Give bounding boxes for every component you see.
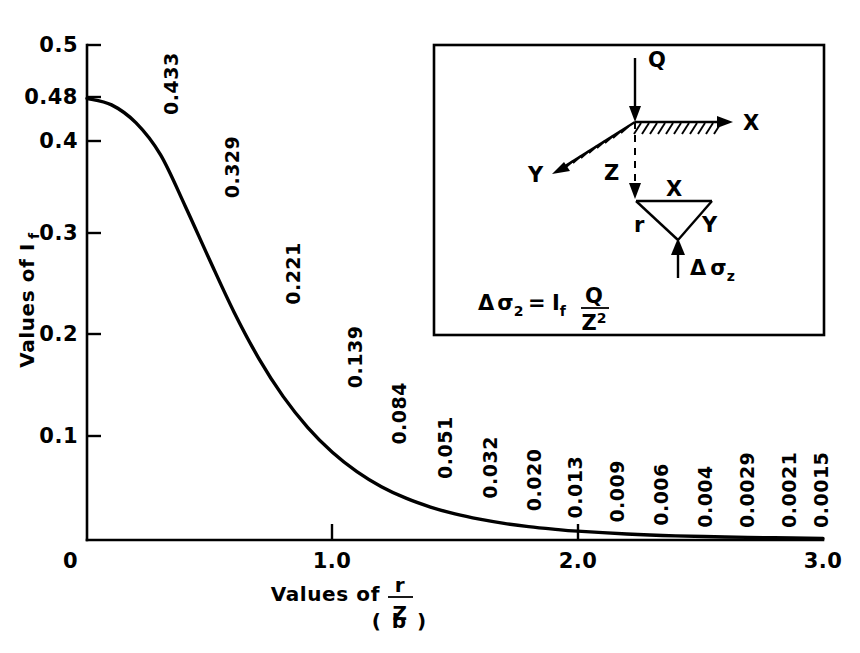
inset-formula: Δσ2 = If Q Z2 <box>478 284 609 335</box>
svg-text:Values of If: Values of If <box>15 232 42 368</box>
data-point-label-1: 0.329 <box>221 136 243 199</box>
formula-den-text: Z <box>582 311 597 335</box>
triangle-top-label: X <box>666 177 682 201</box>
depth-label-Z: Z <box>604 161 619 185</box>
formula-lhs: Δσ2 <box>478 291 523 319</box>
data-point-label-2: 0.221 <box>282 242 304 305</box>
depth-arrowhead <box>629 183 641 199</box>
stress-label: Δσz <box>690 256 735 284</box>
formula-numerator: Q <box>585 284 603 308</box>
radius-triangle <box>636 201 712 240</box>
data-point-label-8: 0.013 <box>564 456 586 519</box>
x-axis-title-numerator: r <box>395 573 405 597</box>
formula-denominator: Z2 <box>582 310 607 335</box>
formula-delta: Δ <box>478 291 495 315</box>
y-tick-label-0: 0.5 <box>39 33 78 57</box>
data-point-label-13: 0.0021 <box>778 452 800 528</box>
data-label-group: 0.4330.3290.2210.1390.0840.0510.0320.020… <box>160 52 832 528</box>
stress-delta: Δ <box>690 256 707 280</box>
y-tick-label-2: 0.4 <box>39 129 78 153</box>
figure-caption: ( b ) <box>372 609 429 633</box>
data-point-label-6: 0.032 <box>479 436 501 499</box>
formula-sigma-sub: 2 <box>514 303 524 319</box>
y-axis-title: Values of If <box>15 232 42 368</box>
x-tick-label-2: 2.0 <box>559 549 598 573</box>
y-tick-label-6: 0 <box>63 549 78 573</box>
data-point-label-4: 0.084 <box>388 382 410 445</box>
load-label-Q: Q <box>648 48 666 72</box>
inset-y-label: Y <box>527 163 544 187</box>
formula-sigma: σ <box>497 291 513 315</box>
data-point-label-10: 0.006 <box>650 463 672 526</box>
x-tick-label-3: 3.0 <box>804 549 843 573</box>
y-tick-label-1: 0.48 <box>24 85 78 109</box>
y-axis-title-text: Values of I <box>15 243 39 368</box>
ground-hatch-y <box>565 126 629 168</box>
formula-I: If <box>552 291 567 319</box>
formula-equals: = <box>528 291 546 315</box>
triangle-left-label: r <box>634 213 645 237</box>
y-tick-label-4: 0.2 <box>39 322 78 346</box>
formula-i-sub: f <box>560 303 567 319</box>
inset-diagram: Q X Y <box>434 45 824 335</box>
load-arrow-head <box>629 106 641 122</box>
y-tick-label-3: 0.3 <box>39 221 78 245</box>
stress-sigma: σ <box>710 256 726 280</box>
data-point-label-11: 0.004 <box>694 465 716 528</box>
formula-i-text: I <box>552 291 560 315</box>
y-axis-title-sub: f <box>26 232 42 239</box>
data-point-label-3: 0.139 <box>344 326 366 389</box>
inset-x-label: X <box>743 111 759 135</box>
triangle-right-label: Y <box>701 213 718 237</box>
y-tick-label-5: 0.1 <box>39 424 78 448</box>
figure-container: 0.5 0.48 0.4 0.3 0.2 0.1 0 1.0 2.0 3.0 V… <box>0 0 860 653</box>
x-tick-label-1: 1.0 <box>313 549 352 573</box>
ground-hatch-x <box>634 123 721 134</box>
chart-svg: 0.5 0.48 0.4 0.3 0.2 0.1 0 1.0 2.0 3.0 V… <box>0 0 860 653</box>
x-axis-title-text: Values of <box>271 582 380 606</box>
data-point-label-7: 0.020 <box>523 449 545 512</box>
data-point-label-12: 0.0029 <box>736 452 758 528</box>
stress-arrowhead <box>671 238 685 255</box>
stress-sub: z <box>727 268 735 284</box>
formula-den-sup: 2 <box>597 310 607 326</box>
data-point-label-5: 0.051 <box>434 416 456 479</box>
data-point-label-14: 0.0015 <box>810 452 832 528</box>
data-point-label-0: 0.433 <box>160 52 182 115</box>
data-point-label-9: 0.009 <box>606 460 628 523</box>
x-tick-labels: 1.0 2.0 3.0 <box>313 549 843 573</box>
y-tick-marks <box>87 45 101 436</box>
